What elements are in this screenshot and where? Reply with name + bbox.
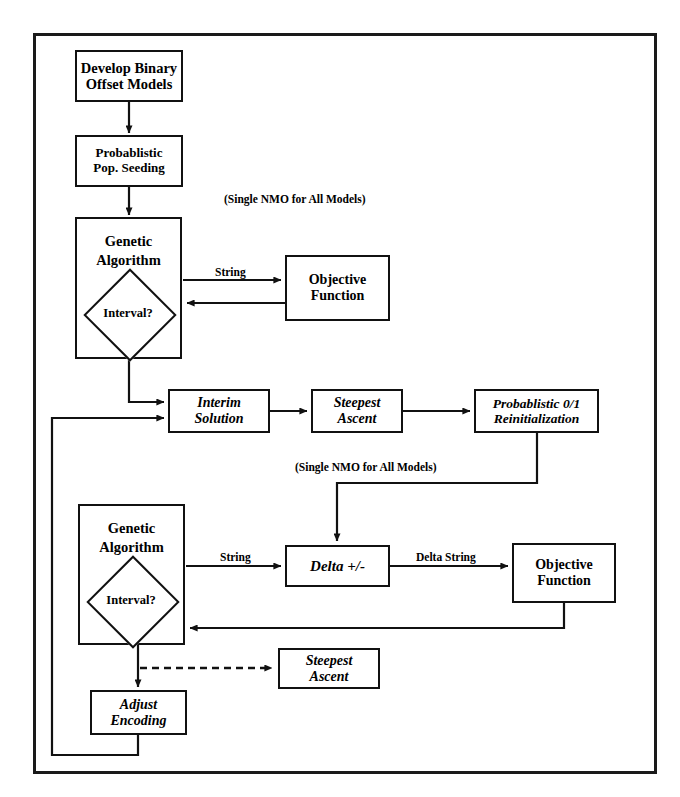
node-line-2: Pop. Seeding	[93, 161, 165, 176]
node-objective-function-bottom[interactable]: Objective Function	[512, 543, 616, 603]
annotation-single-nmo-bottom: (Single NMO for All Models)	[295, 461, 437, 473]
node-line-1: Develop Binary	[81, 60, 177, 76]
node-adjust-encoding[interactable]: Adjust Encoding	[90, 690, 187, 735]
node-steepest-ascent-bottom[interactable]: Steepest Ascent	[278, 648, 380, 689]
node-line-1: Adjust	[120, 697, 157, 713]
node-develop-binary-offset-models[interactable]: Develop Binary Offset Models	[75, 50, 183, 102]
node-line-1: Objective	[309, 272, 367, 288]
node-line-2: Offset Models	[86, 76, 173, 92]
node-line-2: Solution	[194, 411, 243, 427]
node-line-1: Probablistic	[96, 146, 163, 161]
node-interim-solution[interactable]: Interim Solution	[168, 389, 270, 433]
node-probablistic-pop-seeding[interactable]: Probablistic Pop. Seeding	[75, 135, 183, 187]
decision-label: Interval?	[103, 306, 152, 321]
decision-label: Interval?	[106, 593, 155, 608]
edge-label-string-bottom: String	[218, 551, 253, 563]
annotation-single-nmo-top: (Single NMO for All Models)	[224, 193, 366, 205]
node-line-1: Steepest	[334, 395, 381, 411]
node-line-1: Genetic	[105, 232, 153, 251]
node-line-2: Encoding	[110, 713, 166, 729]
node-line-2: Ascent	[338, 411, 377, 427]
node-objective-function-top[interactable]: Objective Function	[285, 255, 390, 321]
decision-interval-bottom[interactable]: Interval?	[85, 554, 177, 646]
node-probablistic-01-reinitialization[interactable]: Probablistic 0/1 Reinitialization	[474, 389, 599, 433]
node-line-2: Ascent	[310, 669, 349, 685]
edge-label-delta-string: Delta String	[414, 551, 478, 563]
edge-label-string-top: String	[213, 266, 248, 278]
flowchart-canvas: Develop Binary Offset Models Probablisti…	[0, 0, 680, 797]
node-line-2: Function	[311, 288, 365, 304]
node-line-1: Delta +/-	[310, 558, 365, 575]
node-delta-plus-minus[interactable]: Delta +/-	[285, 545, 390, 587]
node-line-2: Function	[537, 573, 591, 589]
node-line-1: Steepest	[306, 653, 353, 669]
node-line-2: Reinitialization	[494, 411, 580, 426]
decision-interval-top[interactable]: Interval?	[82, 267, 174, 359]
node-line-1: Interim	[197, 395, 241, 411]
node-line-1: Genetic	[108, 519, 156, 538]
node-line-1: Objective	[535, 557, 593, 573]
node-steepest-ascent-mid[interactable]: Steepest Ascent	[311, 389, 403, 433]
node-line-1: Probablistic 0/1	[493, 396, 580, 411]
